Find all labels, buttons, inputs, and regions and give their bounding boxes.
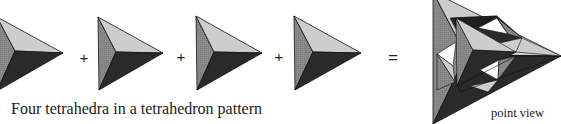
point-view-label: point view <box>491 106 544 121</box>
figure-caption: Four tetrahedra in a tetrahedron pattern <box>11 100 262 118</box>
tetrahedron-1 <box>0 17 63 91</box>
tetrahedron-2 <box>98 17 163 90</box>
tetrahedron-4 <box>294 16 361 90</box>
equals-sign: = <box>388 49 398 66</box>
plus-sign-1: + <box>80 50 89 65</box>
plus-sign-2: + <box>177 49 186 64</box>
tetrahedron-3 <box>196 16 262 90</box>
tetrahedra-figure: + + + = Four tetrahedra in a tetrahedron… <box>0 0 561 124</box>
plus-sign-3: + <box>275 49 284 64</box>
